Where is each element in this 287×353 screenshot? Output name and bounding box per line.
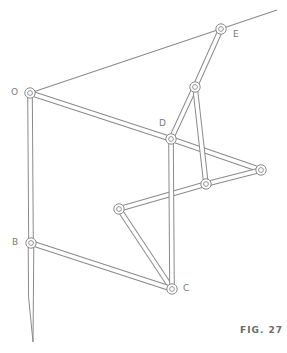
pivot-joint-g [256, 165, 266, 175]
pivot-joint-c [167, 284, 177, 294]
linkage-diagram [0, 0, 287, 353]
joint-label-b: B [12, 238, 18, 247]
pivot-joint-h [201, 179, 211, 189]
joint-label-c: C [183, 284, 189, 293]
joint-label-d: D [159, 119, 166, 128]
pivot-joint-b [26, 238, 36, 248]
pivot-joint-d [166, 134, 176, 144]
figure-caption: FIG. 27 [240, 326, 283, 335]
pivot-joint-f [190, 82, 200, 92]
pivot-joint-e [216, 24, 226, 34]
guide-line-layer [30, 10, 277, 93]
joint-label-o: O [11, 88, 18, 97]
pivot-joint-o [25, 88, 35, 98]
stylus-point [28, 243, 34, 342]
stylus-layer [28, 243, 34, 342]
guide-line [30, 10, 277, 93]
linkage-bars-layer [30, 29, 261, 289]
pivot-joint-i [114, 204, 124, 214]
joint-label-e: E [233, 30, 239, 39]
